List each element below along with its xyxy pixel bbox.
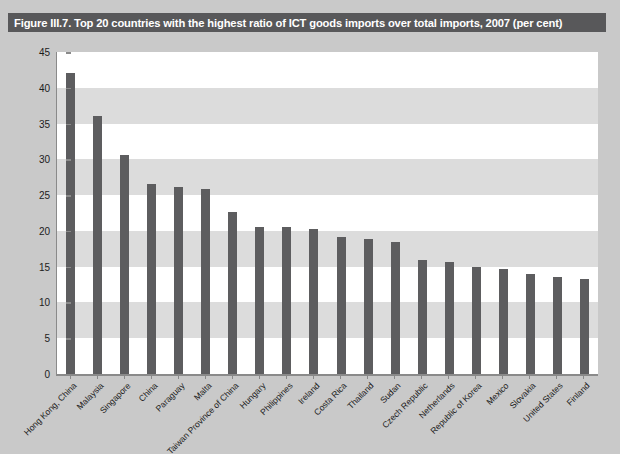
bar[interactable] — [174, 187, 183, 374]
x-axis-tick-mark — [232, 375, 233, 379]
bar[interactable] — [282, 227, 291, 374]
bar[interactable] — [201, 189, 210, 374]
x-axis-tick-mark — [529, 375, 530, 379]
bar[interactable] — [93, 116, 102, 374]
y-axis-tick-label: 15 — [28, 261, 50, 272]
bar[interactable] — [228, 212, 237, 374]
x-axis-tick-mark — [205, 375, 206, 379]
figure-panel: 051015202530354045 Hong Kong, ChinaMalay… — [8, 36, 606, 444]
x-axis-tick-mark — [394, 375, 395, 379]
bar[interactable] — [66, 73, 75, 374]
figure-title: Figure III.7. Top 20 countries with the … — [14, 17, 562, 29]
x-axis-tick-mark — [448, 375, 449, 379]
x-axis-tick-mark — [340, 375, 341, 379]
y-axis-tick-mark — [66, 338, 71, 340]
x-axis-tick-mark — [70, 375, 71, 379]
grid-band — [57, 302, 598, 338]
x-axis-tick-mark — [583, 375, 584, 379]
y-axis-labels: 051015202530354045 — [24, 36, 50, 444]
x-axis-tick-mark — [259, 375, 260, 379]
x-axis-tick-mark — [313, 375, 314, 379]
y-axis-tick-mark — [66, 88, 71, 90]
x-axis-tick-mark — [502, 375, 503, 379]
y-axis-tick-label: 30 — [28, 154, 50, 165]
y-axis-tick-mark — [66, 302, 71, 304]
y-axis-tick-label: 25 — [28, 190, 50, 201]
y-axis-tick-mark — [66, 159, 71, 161]
grid-band — [57, 159, 598, 195]
bar[interactable] — [255, 227, 264, 374]
y-axis-tick-mark — [66, 52, 71, 54]
x-axis-tick-mark — [124, 375, 125, 379]
y-axis-tick-mark — [66, 231, 71, 233]
x-axis-tick-mark — [178, 375, 179, 379]
y-axis-tick-label: 40 — [28, 82, 50, 93]
x-axis-tick-mark — [97, 375, 98, 379]
x-axis-tick-mark — [367, 375, 368, 379]
y-axis-tick-label: 45 — [28, 47, 50, 58]
gridline-bands — [57, 52, 598, 374]
x-axis-tick-mark — [421, 375, 422, 379]
y-axis-tick-mark — [66, 195, 71, 197]
x-axis-tick-mark — [475, 375, 476, 379]
bar[interactable] — [526, 274, 535, 374]
y-axis-tick-label: 5 — [28, 333, 50, 344]
y-axis-tick-mark — [66, 267, 71, 269]
y-axis-tick-label: 35 — [28, 118, 50, 129]
grid-band — [57, 88, 598, 124]
figure-title-bar: Figure III.7. Top 20 countries with the … — [8, 13, 606, 32]
x-axis-tick-label-text: Malta — [191, 381, 213, 403]
y-axis-tick-mark — [66, 124, 71, 126]
grid-band — [57, 231, 598, 267]
plot-area — [56, 52, 598, 374]
bar[interactable] — [391, 242, 400, 374]
x-axis-tick-mark — [556, 375, 557, 379]
y-axis-tick-label: 10 — [28, 297, 50, 308]
bar[interactable] — [147, 184, 156, 374]
x-axis-tick-mark — [151, 375, 152, 379]
x-axis-tick-label-text: Republic of Korea — [429, 381, 484, 436]
bar[interactable] — [337, 237, 346, 374]
bar[interactable] — [418, 260, 427, 374]
y-axis-tick-label: 0 — [28, 369, 50, 380]
y-axis-tick-label: 20 — [28, 225, 50, 236]
x-axis-tick-mark — [286, 375, 287, 379]
x-axis-tick-label-text: China — [136, 381, 159, 404]
